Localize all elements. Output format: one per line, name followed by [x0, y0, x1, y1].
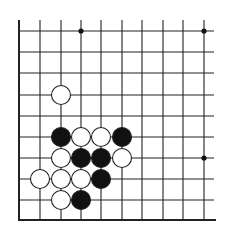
star-point-icon	[201, 28, 206, 33]
black-stone	[72, 149, 91, 168]
white-stone	[31, 170, 50, 189]
black-stone	[92, 149, 111, 168]
white-stone	[52, 86, 71, 105]
star-point-icon	[201, 155, 206, 160]
go-board	[0, 0, 228, 237]
black-stone	[113, 128, 132, 147]
white-stone	[52, 149, 71, 168]
white-stone	[52, 170, 71, 189]
board-grid	[19, 20, 216, 221]
white-stone	[92, 128, 111, 147]
white-stone	[72, 170, 91, 189]
white-stone	[113, 149, 132, 168]
black-stone	[92, 170, 111, 189]
white-stone	[52, 191, 71, 210]
star-point-icon	[78, 28, 83, 33]
black-stone	[52, 128, 71, 147]
black-stone	[72, 191, 91, 210]
white-stone	[72, 128, 91, 147]
